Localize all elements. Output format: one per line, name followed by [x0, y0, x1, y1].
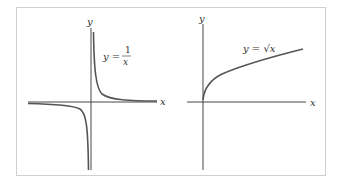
left-equation-denominator: x — [123, 57, 128, 67]
left-equation-lhs: y = — [102, 51, 120, 62]
left-y-axis-label: y — [86, 16, 93, 27]
reciprocal-curve-negative — [28, 104, 89, 171]
right-y-axis-label: y — [198, 13, 205, 24]
left-x-axis-label: x — [160, 96, 166, 107]
right-x-axis-label: x — [310, 97, 316, 108]
sqrt-curve — [203, 49, 303, 100]
left-panel-reciprocal: y x y = 1 x — [28, 16, 166, 170]
figure-canvas: y x y = 1 x y x y = √x — [0, 0, 338, 184]
right-panel-sqrt: y x y = √x — [187, 13, 316, 170]
right-equation: y = √x — [242, 43, 276, 54]
left-equation-numerator: 1 — [125, 45, 131, 55]
